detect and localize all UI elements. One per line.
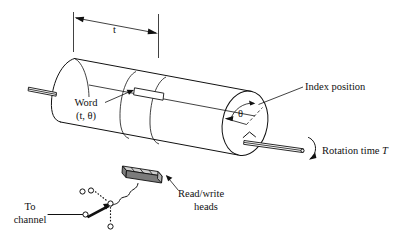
index-position-label: Index position <box>305 81 365 93</box>
switch-contact-3[interactable] <box>108 224 113 229</box>
right-shaft-centerline <box>244 142 303 150</box>
head-to-switch-wire <box>112 184 139 207</box>
drum-track-band-2 <box>150 77 166 144</box>
drum-bottom-edge <box>61 122 239 155</box>
read-write-head-block-group <box>122 166 162 183</box>
drum-track-band-1 <box>120 72 136 139</box>
word-label-line1: Word <box>66 97 106 109</box>
dimension-left-arrowhead <box>75 17 85 23</box>
dimension-line <box>76 18 156 33</box>
figure-canvas: t Word (t, θ) Index position θ Rotation … <box>0 0 400 238</box>
to-channel-label-line2: channel <box>4 214 56 226</box>
index-position-leader <box>259 87 304 105</box>
rotation-time-symbol: T <box>382 145 388 156</box>
dimension-t-group <box>74 12 159 58</box>
switch-contact-2[interactable] <box>88 188 93 193</box>
switch-contact-1[interactable] <box>80 189 85 194</box>
drum-left-end-rim <box>75 59 90 98</box>
rotation-time-label: Rotation time T <box>322 145 388 157</box>
switch-contact-selected[interactable] <box>108 201 113 206</box>
drum-surface-axis-line <box>89 85 255 116</box>
right-shaft-end-cap <box>301 149 304 152</box>
word-cell-hatched <box>134 88 164 100</box>
word-label-line2: (t, θ) <box>66 110 106 122</box>
theta-arc-arrowhead <box>249 100 255 105</box>
index-mark-on-rim <box>243 132 255 138</box>
rotation-arrow-head <box>309 153 316 160</box>
switch-dots-upper <box>96 192 108 201</box>
read-write-leader-group <box>166 175 179 191</box>
drum-top-edge <box>75 59 253 92</box>
theta-angle-group <box>225 100 262 137</box>
theta-reference-arrowhead <box>225 116 233 121</box>
rotation-arrow-group <box>309 138 317 160</box>
theta-index-radius-dashed <box>247 108 263 125</box>
drum-right-end-ellipse <box>217 87 273 159</box>
word-cell-group <box>134 88 164 100</box>
left-shaft-group <box>28 87 56 96</box>
rotation-time-text: Rotation time <box>322 145 382 156</box>
read-write-leader-arrowhead <box>166 175 173 181</box>
right-shaft-group <box>244 141 305 153</box>
word-leader-group <box>105 90 134 103</box>
dimension-right-arrowhead <box>148 29 158 35</box>
to-channel-label-line1: To <box>12 201 48 213</box>
channel-switch-group[interactable] <box>48 188 113 229</box>
read-write-label-line2: heads <box>178 201 234 213</box>
read-write-label-line1: Read/write <box>178 188 224 200</box>
dimension-t-label: t <box>113 24 116 36</box>
theta-label: θ <box>238 108 243 120</box>
